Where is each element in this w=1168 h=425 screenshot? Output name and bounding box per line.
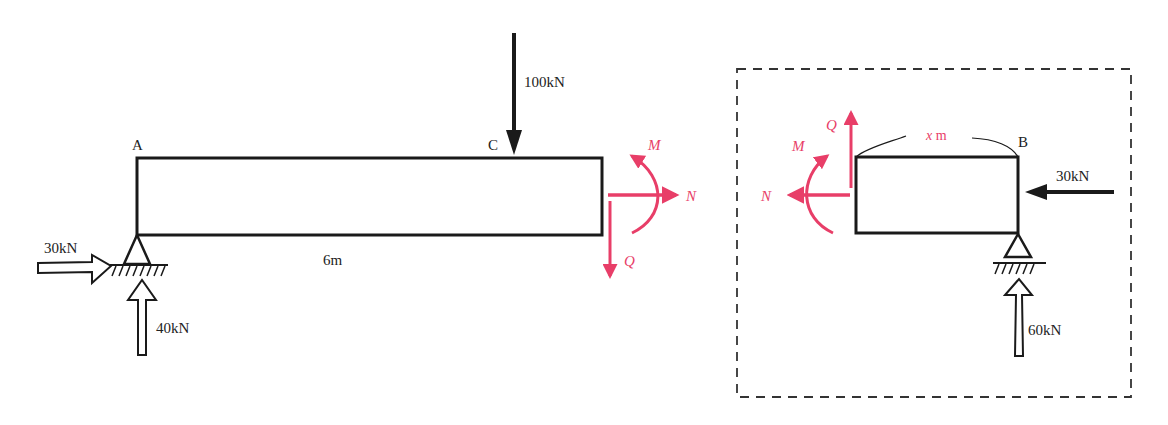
pin-support-icon (110, 235, 168, 276)
point-label-b: B (1018, 134, 1028, 150)
left-free-body-diagram: A C 100kN 30kN 40kN 6m (38, 33, 697, 355)
moment-label: M (647, 137, 662, 153)
internal-forces-right (790, 113, 851, 233)
segment-length-bracket-right (972, 138, 1018, 157)
beam-length-label: 6m (323, 252, 343, 268)
internal-forces-left (608, 156, 676, 276)
point-label-a: A (132, 137, 143, 153)
vertical-reaction-arrow-icon (128, 280, 156, 355)
horizontal-reaction-arrow-icon (38, 255, 111, 283)
vertical-reaction-label: 40kN (156, 320, 190, 336)
beam-ac (137, 158, 602, 235)
point-label-c: C (488, 137, 498, 153)
axial-force-label: N (685, 188, 697, 204)
beam-segment-b (856, 157, 1018, 233)
point-load-label: 100kN (524, 74, 565, 90)
moment-right-label: M (791, 138, 806, 154)
right-free-body-diagram: x m B 30kN 60kN Q M (737, 69, 1131, 397)
vertical-reaction-b-arrow-icon (1005, 279, 1032, 356)
point-load-arrow-icon (506, 33, 522, 155)
segment-length-label: x m (925, 128, 947, 143)
vertical-reaction-b-label: 60kN (1028, 322, 1062, 338)
free-body-diagram-canvas: A C 100kN 30kN 40kN 6m (0, 0, 1168, 425)
horizontal-force-arrow-icon (1025, 184, 1114, 200)
segment-length-unit: m (932, 128, 947, 143)
horizontal-reaction-label: 30kN (44, 240, 78, 256)
segment-length-bracket (856, 136, 906, 157)
axial-force-right-label: N (760, 188, 772, 204)
shear-force-right-label: Q (826, 117, 837, 133)
pin-support-b-icon (993, 234, 1046, 274)
horizontal-force-label: 30kN (1056, 168, 1090, 184)
shear-force-label: Q (624, 253, 635, 269)
